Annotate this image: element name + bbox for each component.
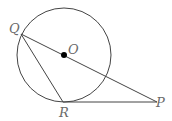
label-o: O [68, 42, 79, 57]
segment-qp [21, 34, 157, 102]
label-p: P [155, 95, 165, 110]
geometry-diagram: Q O R P [0, 0, 172, 121]
label-r: R [58, 105, 69, 120]
center-point-o [61, 52, 67, 58]
label-q: Q [9, 21, 20, 36]
